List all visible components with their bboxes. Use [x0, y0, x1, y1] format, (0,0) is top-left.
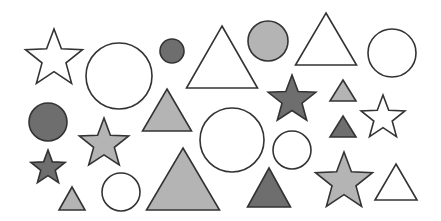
white-circle-shape	[102, 173, 140, 211]
shapes-canvas	[0, 0, 441, 221]
light-star-shape	[79, 118, 128, 165]
dark-star-shape	[268, 75, 316, 120]
dark-triangle-shape	[330, 116, 356, 137]
white-star-shape	[361, 95, 405, 137]
dark-circle-shape	[160, 39, 184, 63]
light-star-shape	[316, 152, 373, 206]
white-circle-shape	[368, 29, 416, 77]
light-triangle-shape	[59, 187, 85, 210]
light-triangle-shape	[330, 80, 356, 101]
white-circle-shape	[200, 108, 264, 172]
white-circle-shape	[273, 131, 311, 169]
white-triangle-shape	[296, 13, 357, 65]
white-triangle-shape	[187, 26, 258, 88]
white-circle-shape	[86, 43, 152, 109]
white-star-shape	[26, 29, 83, 83]
light-circle-shape	[248, 21, 288, 61]
dark-triangle-shape	[248, 168, 291, 207]
light-triangle-shape	[143, 89, 192, 131]
dark-star-shape	[31, 150, 65, 183]
dark-circle-shape	[29, 103, 67, 141]
white-triangle-shape	[375, 164, 417, 200]
